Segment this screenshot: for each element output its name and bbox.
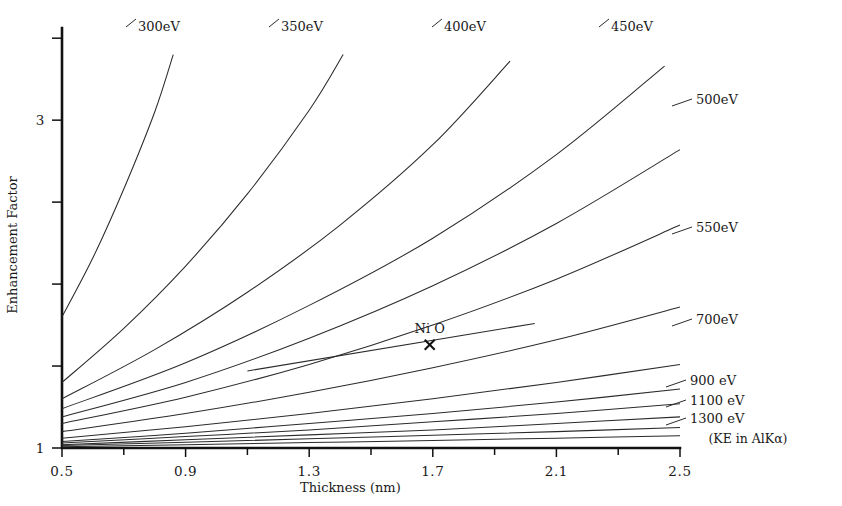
x-tick-label: 0.5 [50,463,73,479]
y-tick-label: 1 [36,440,45,456]
series-label-450eV: 450eV [611,19,654,34]
series-label-350eV: 350eV [281,19,324,34]
series-leader-900eV [666,380,686,387]
series-curve-700eV [62,307,680,432]
series-curve-300eV [62,55,173,317]
x-axis-title: Thickness (nm) [300,480,401,495]
series-label-300eV: 300eV [138,19,181,34]
nio-label: Ni O [415,321,445,336]
chart-svg: 0.50.91.31.72.12.513300eV350eV400eV450eV… [0,0,842,506]
series-curve-500eV [62,150,680,417]
y-tick-label: 3 [36,112,45,128]
series-label-1300eV: 1300 eV [690,411,745,426]
series-curve-550eV [62,225,680,423]
series-leader-300eV [126,19,136,27]
series-leader-700eV [672,319,692,326]
x-tick-label: 0.9 [174,463,197,479]
ke-source-note: (KE in AlKα) [708,431,787,446]
series-leader-500eV [672,99,692,106]
series-label-400eV: 400eV [444,19,487,34]
series-label-550eV: 550eV [696,220,739,235]
axis-lines [62,28,680,448]
series-curve-350eV [62,55,343,383]
series-leader-1300eV [666,418,686,425]
series-label-500eV: 500eV [696,92,739,107]
series-label-900eV: 900 eV [690,373,737,388]
series-leader-550eV [672,227,692,234]
x-tick-label: 1.3 [298,463,321,479]
nio-reference-segment [247,323,534,371]
enhancement-factor-chart: 0.50.91.31.72.12.513300eV350eV400eV450eV… [0,0,842,506]
series-leader-350eV [269,19,279,27]
x-tick-label: 2.1 [545,463,568,479]
series-leader-400eV [432,19,442,27]
series-label-700eV: 700eV [696,312,739,327]
series-curve-400eV [62,61,510,399]
series-curve-1100eV [62,389,680,441]
series-curve-extra-2 [62,428,680,446]
series-leader-450eV [599,19,609,27]
x-tick-label: 1.7 [421,463,444,479]
series-label-1100eV: 1100 eV [690,393,745,408]
y-axis-title: Enhancement Factor [5,175,20,313]
x-tick-label: 2.5 [668,463,691,479]
series-leader-1100eV [666,400,686,407]
